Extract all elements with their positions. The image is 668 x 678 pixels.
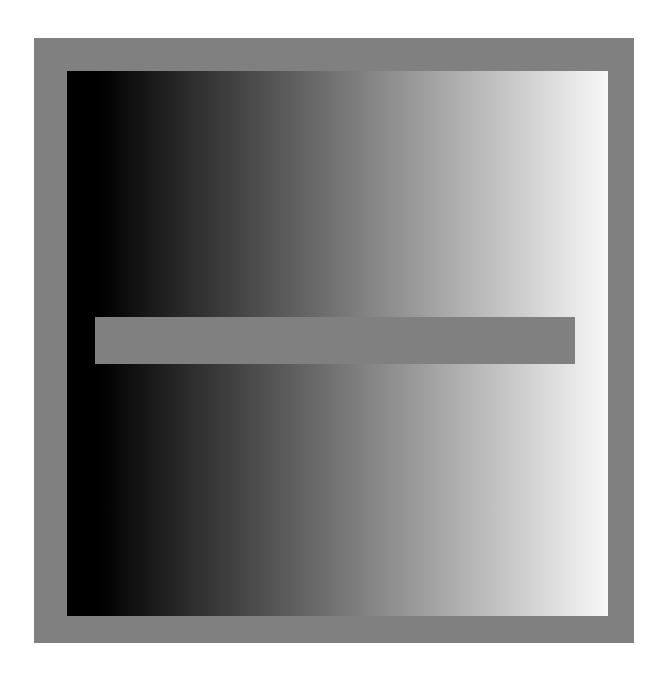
uniform-gray-bar — [95, 317, 575, 364]
